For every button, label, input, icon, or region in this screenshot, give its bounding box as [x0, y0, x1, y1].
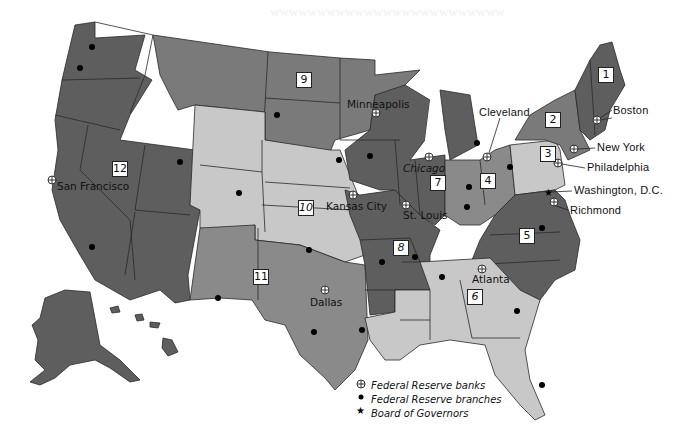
city-label-philadelphia: Philadelphia — [587, 161, 649, 173]
bank-icon-newyork — [570, 145, 578, 153]
legend-label-board: Board of Governors — [371, 408, 468, 419]
district-number-2: 2 — [545, 112, 561, 128]
legend-row-branches: Federal Reserve branches — [355, 392, 502, 406]
city-label-dallas: Dallas — [310, 296, 342, 308]
city-label-new-york: New York — [597, 141, 645, 153]
bank-icon-dallas — [321, 286, 329, 294]
district-number-7: 7 — [430, 175, 446, 191]
city-label-san-francisco: San Francisco — [57, 180, 129, 192]
district-number-1: 1 — [598, 67, 614, 83]
city-label-minneapolis: Minneapolis — [347, 98, 410, 110]
map-legend: Federal Reserve banks Federal Reserve br… — [355, 378, 502, 420]
district-number-12: 12 — [112, 161, 128, 177]
district-number-4: 4 — [480, 173, 496, 189]
star-icon: ★ — [544, 187, 553, 198]
bank-icon-stlouis — [402, 201, 410, 209]
city-label-chicago: Chicago — [403, 162, 445, 174]
legend-row-board: Board of Governors — [355, 406, 502, 420]
legend-label-branches: Federal Reserve branches — [371, 394, 502, 405]
district-number-11: 11 — [253, 269, 269, 285]
bank-icon-boston — [593, 116, 601, 124]
district-number-9: 9 — [296, 72, 312, 88]
district-3 — [510, 140, 565, 195]
city-label-richmond: Richmond — [570, 204, 621, 216]
city-label-st-louis: St. Louis — [403, 209, 448, 221]
district-number-3: 3 — [540, 146, 556, 162]
district-number-6: 6 — [467, 289, 483, 305]
bank-icon-kc — [349, 191, 357, 199]
district-1 — [575, 42, 625, 140]
bank-icon-richmond — [550, 198, 558, 206]
federal-reserve-map: ★ ★ — [0, 0, 673, 433]
bank-icon-atlanta — [478, 265, 486, 273]
bank-icon-cleveland — [483, 153, 491, 161]
city-label-kansas-city: Kansas City — [326, 200, 387, 212]
alaska — [30, 290, 140, 385]
city-label-washington: Washington, D.C. — [574, 184, 663, 196]
bank-icon-chicago — [425, 153, 433, 161]
legend-row-banks: Federal Reserve banks — [355, 378, 502, 392]
bank-icon-sf — [48, 176, 56, 184]
bank-icon-minneapolis — [372, 109, 380, 117]
hawaii — [110, 306, 178, 356]
district-number-5: 5 — [519, 228, 535, 244]
district-number-10: 10 — [298, 200, 314, 216]
district-number-8: 8 — [393, 240, 409, 256]
city-label-cleveland: Cleveland — [479, 106, 530, 118]
city-label-atlanta: Atlanta — [472, 273, 510, 285]
legend-label-banks: Federal Reserve banks — [371, 380, 485, 391]
city-label-boston: Boston — [613, 104, 648, 116]
